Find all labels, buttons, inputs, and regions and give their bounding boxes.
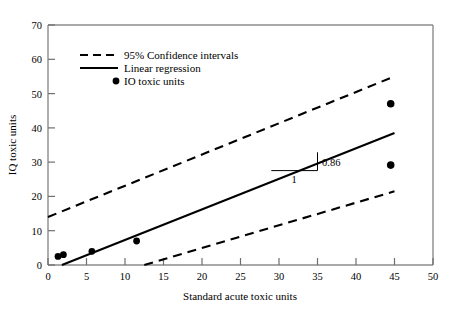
y-tick-label: 60 [32, 54, 43, 65]
y-tick-label: 40 [32, 123, 43, 134]
y-tick-label: 30 [32, 157, 43, 168]
x-tick-label: 40 [351, 271, 362, 282]
x-axis-ticks [48, 258, 433, 265]
x-tick-label: 50 [428, 271, 439, 282]
x-tick-label: 10 [120, 271, 131, 282]
lower-confidence-interval-line [144, 191, 394, 265]
upper-confidence-interval-line [48, 76, 395, 217]
y-tick-label: 50 [32, 89, 43, 100]
y-tick-label: 0 [37, 260, 42, 271]
slope-run-label: 1 [291, 174, 296, 185]
y-tick-label: 10 [32, 226, 43, 237]
data-point [387, 100, 395, 108]
data-point [133, 238, 140, 245]
x-tick-label: 0 [45, 271, 50, 282]
data-point [387, 161, 395, 169]
data-point [89, 248, 96, 255]
legend-label: 95% Confidence intervals [124, 49, 238, 61]
legend: 95% Confidence intervals Linear regressi… [80, 49, 238, 87]
x-tick-label: 30 [274, 271, 285, 282]
slope-rise-label: 0.86 [322, 157, 340, 168]
legend-label: Linear regression [124, 62, 201, 74]
data-point [60, 251, 67, 258]
legend-item-linear-regression: Linear regression [80, 62, 201, 74]
y-axis-ticks [48, 25, 55, 265]
legend-item-io-toxic-units: IO toxic units [113, 75, 185, 87]
x-tick-label: 45 [389, 271, 400, 282]
y-axis-title: IQ toxic units [6, 115, 18, 176]
x-axis-title: Standard acute toxic units [183, 290, 297, 302]
legend-item-confidence-intervals: 95% Confidence intervals [80, 49, 238, 61]
x-tick-label: 5 [84, 271, 89, 282]
scatter-plot: 0 10 20 30 40 50 60 70 0 5 10 [0, 0, 458, 309]
x-tick-label: 35 [312, 271, 323, 282]
data-points [55, 100, 395, 260]
y-tick-label: 20 [32, 191, 43, 202]
filled-circle-icon [113, 78, 120, 85]
figure-container: 0 10 20 30 40 50 60 70 0 5 10 [0, 0, 458, 309]
x-axis-tick-labels: 0 5 10 15 20 25 30 35 40 45 50 [45, 271, 438, 282]
legend-label: IO toxic units [124, 75, 185, 87]
x-tick-label: 25 [235, 271, 246, 282]
y-axis-tick-labels: 0 10 20 30 40 50 60 70 [32, 20, 43, 271]
x-tick-label: 20 [197, 271, 208, 282]
y-tick-label: 70 [32, 20, 43, 31]
linear-regression-line [62, 133, 395, 265]
plot-frame [48, 25, 433, 265]
x-tick-label: 15 [158, 271, 169, 282]
